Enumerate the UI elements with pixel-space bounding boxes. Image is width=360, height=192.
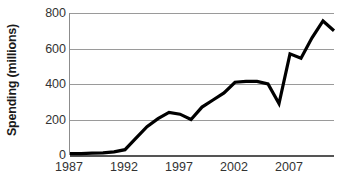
gridline [70, 155, 334, 157]
series-polyline [70, 21, 334, 154]
x-axis-tick: 2007 [275, 160, 303, 174]
plot-area [69, 13, 333, 155]
x-axis-tick: 1987 [55, 160, 83, 174]
series-line-spending [70, 13, 334, 155]
x-axis-tick: 1997 [165, 160, 193, 174]
y-axis-tick: 800 [26, 7, 66, 20]
x-axis-tick: 1992 [110, 160, 138, 174]
x-axis-tick: 2002 [220, 160, 248, 174]
y-axis-title: Spending (millions) [2, 0, 22, 160]
spending-line-chart: Spending (millions) 8006004002000 198719… [0, 0, 360, 192]
y-axis-title-label: Spending (millions) [5, 24, 19, 136]
y-axis-tick: 600 [26, 42, 66, 55]
y-axis-tick: 400 [26, 78, 66, 91]
y-axis-tick: 200 [26, 113, 66, 126]
